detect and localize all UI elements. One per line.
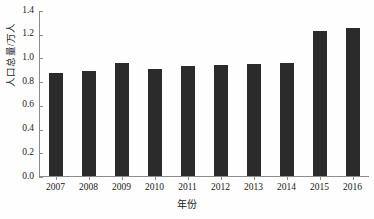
x-tick-mark: [122, 177, 123, 180]
y-tick-label: 0.6: [22, 99, 34, 109]
bar[interactable]: [313, 31, 327, 176]
x-tick-mark: [155, 177, 156, 180]
x-tick-mark: [353, 177, 354, 180]
bar[interactable]: [82, 71, 96, 176]
bar-series: [39, 11, 369, 176]
plot-area: 0.00.20.40.60.81.01.21.4: [39, 11, 369, 177]
bar[interactable]: [148, 69, 162, 176]
bar[interactable]: [115, 63, 129, 176]
y-tick-label: 1.4: [22, 5, 34, 15]
bar[interactable]: [247, 64, 261, 176]
bar[interactable]: [181, 66, 195, 176]
y-tick-label: 0.4: [22, 123, 34, 133]
bar-slot: [237, 11, 270, 176]
x-tick-mark: [56, 177, 57, 180]
bar[interactable]: [49, 73, 63, 176]
bar-slot: [138, 11, 171, 176]
bar-slot: [270, 11, 303, 176]
x-tick-mark: [287, 177, 288, 180]
bar-slot: [39, 11, 72, 176]
x-tick-label: 2012: [204, 182, 237, 192]
y-tick-label: 0.2: [22, 147, 34, 157]
bar-slot: [171, 11, 204, 176]
x-tick-label: 2013: [237, 182, 270, 192]
bar-slot: [105, 11, 138, 176]
y-tick-label: 0.0: [22, 171, 34, 181]
bar[interactable]: [214, 65, 228, 176]
x-tick-label: 2007: [39, 182, 72, 192]
x-tick-mark: [320, 177, 321, 180]
x-tick-mark: [188, 177, 189, 180]
x-tick-mark: [221, 177, 222, 180]
x-tick-label: 2010: [138, 182, 171, 192]
y-tick-label: 1.0: [22, 52, 34, 62]
bar-slot: [72, 11, 105, 176]
x-tick-label: 2008: [72, 182, 105, 192]
bar-slot: [336, 11, 369, 176]
bar-slot: [303, 11, 336, 176]
x-tick-label: 2011: [171, 182, 204, 192]
bar[interactable]: [280, 63, 294, 176]
bar-chart-figure: 人口总量/万人 0.00.20.40.60.81.01.21.4 2007200…: [0, 0, 374, 219]
bar[interactable]: [346, 28, 360, 177]
x-tick-label: 2016: [336, 182, 369, 192]
y-tick-label: 1.2: [22, 28, 34, 38]
bar-slot: [204, 11, 237, 176]
y-axis-title: 人口总量/万人: [3, 7, 17, 103]
x-tick-label: 2014: [270, 182, 303, 192]
y-tick-label: 0.8: [22, 76, 34, 86]
x-tick-label: 2015: [303, 182, 336, 192]
x-tick-mark: [89, 177, 90, 180]
x-axis-title: 年份: [0, 196, 374, 211]
x-tick-label: 2009: [105, 182, 138, 192]
x-tick-mark: [254, 177, 255, 180]
